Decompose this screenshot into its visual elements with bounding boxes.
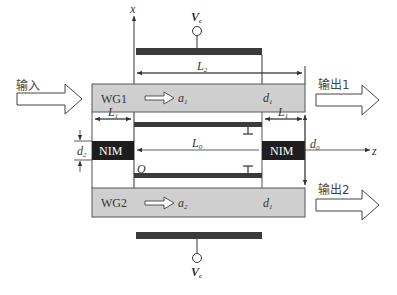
z-axis-label: z — [372, 145, 377, 157]
wg1-thickness-label: d1 — [263, 92, 273, 106]
ground-icon-upper — [243, 127, 253, 134]
voltage-top-label: Vc — [191, 11, 202, 25]
wg1-label: WG1 — [101, 93, 127, 105]
mode-a2-label: a2 — [178, 197, 188, 211]
top-electrode — [136, 27, 262, 56]
d2-label: d2 — [77, 145, 87, 159]
output1-label: 输出1 — [318, 79, 350, 91]
origin-label: O — [137, 163, 146, 175]
nim-left-label: NIM — [99, 145, 122, 157]
l1-right-label: L1 — [278, 106, 288, 120]
mode-a1-label: a1 — [178, 92, 188, 106]
wg2-label: WG2 — [101, 197, 127, 209]
wg2-thickness-label: d1 — [263, 197, 273, 211]
voltage-bottom-label: Vc — [191, 266, 202, 280]
d0-label: d0 — [310, 138, 320, 152]
bottom-electrode — [136, 232, 262, 263]
l0-label: L0 — [192, 137, 202, 151]
nim-right-label: NIM — [270, 145, 293, 157]
input-label: 输入 — [16, 80, 40, 92]
inner-electrode-lower — [134, 173, 262, 178]
inner-electrode-upper — [134, 122, 262, 127]
output2-label: 输出2 — [318, 184, 350, 196]
l2-label: L2 — [197, 60, 207, 74]
l1-left-label: L1 — [108, 106, 118, 120]
ground-icon-lower — [243, 166, 253, 173]
x-axis-label: x — [130, 3, 135, 15]
